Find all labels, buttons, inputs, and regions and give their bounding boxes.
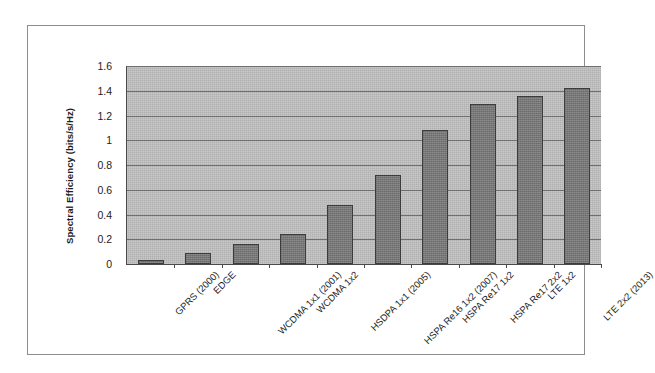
y-tick-label: 1.4: [97, 85, 112, 97]
bar-series: [127, 66, 601, 264]
bar: [233, 244, 259, 264]
x-tick-mark: [506, 264, 507, 268]
x-tick-mark: [269, 264, 270, 268]
y-tick-label: 0.6: [97, 184, 112, 196]
x-axis-tick-labels: GPRS (2000)EDGEWCDMA 1x1 (2001)WCDMA 1x2…: [126, 269, 600, 369]
bar: [185, 253, 211, 264]
y-tick-label: 0: [106, 258, 112, 270]
bar: [422, 130, 448, 264]
bar: [375, 175, 401, 264]
y-tick-label: 1: [106, 134, 112, 146]
x-tick-label: HSPA Re16 1x2 (2007): [421, 269, 498, 346]
plot-area: [126, 66, 601, 265]
x-tick-mark: [554, 264, 555, 268]
x-tick-label: GPRS (2000): [172, 269, 220, 317]
y-tick-label: 0.2: [97, 233, 112, 245]
y-tick-label: 1.6: [97, 60, 112, 72]
x-tick-mark: [222, 264, 223, 268]
chart-frame: Spectral Efficiency (bits/s/Hz) 1.61.41.…: [27, 25, 585, 355]
bar: [327, 205, 353, 264]
x-tick-mark: [601, 264, 602, 268]
x-tick-mark: [459, 264, 460, 268]
bar: [517, 96, 543, 264]
y-axis-title: Spectral Efficiency (bits/s/Hz): [64, 44, 75, 244]
y-tick-label: 1.2: [97, 110, 112, 122]
x-tick-mark: [411, 264, 412, 268]
x-tick-label: LTE 2x2 (2013): [601, 269, 655, 323]
bar: [470, 104, 496, 264]
bar: [564, 88, 590, 264]
bar: [138, 260, 164, 264]
y-axis-tick-labels: 1.61.41.210.80.60.40.20: [76, 66, 116, 264]
x-tick-mark: [317, 264, 318, 268]
x-tick-mark: [174, 264, 175, 268]
y-tick-label: 0.8: [97, 159, 112, 171]
x-tick-mark: [364, 264, 365, 268]
y-tick-label: 0.4: [97, 209, 112, 221]
x-tick-label: HSDPA 1x1 (2005): [369, 269, 433, 333]
bar: [280, 234, 306, 264]
